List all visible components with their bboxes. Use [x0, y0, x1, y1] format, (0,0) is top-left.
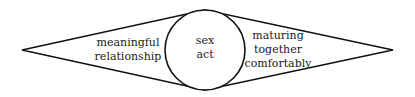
- left-label-line-1: meaningful: [78, 36, 178, 50]
- left-region-label: meaningful relationship: [78, 36, 178, 64]
- right-label-line-3: comfortably: [228, 57, 328, 71]
- right-label-line-1: maturing: [228, 29, 328, 43]
- left-label-line-2: relationship: [78, 50, 178, 64]
- diagram-canvas: meaningful relationship sex act maturing…: [0, 0, 415, 97]
- right-label-line-2: together: [228, 43, 328, 57]
- right-region-label: maturing together comfortably: [228, 29, 328, 71]
- center-label-line-1: sex: [180, 34, 230, 48]
- center-region-label: sex act: [180, 34, 230, 62]
- center-label-line-2: act: [180, 48, 230, 62]
